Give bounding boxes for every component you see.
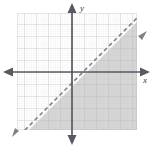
graph-figure: y x <box>0 0 153 146</box>
coordinate-plane-svg: y x <box>0 0 153 146</box>
x-axis-label: x <box>142 75 147 85</box>
y-axis-label: y <box>79 3 84 13</box>
